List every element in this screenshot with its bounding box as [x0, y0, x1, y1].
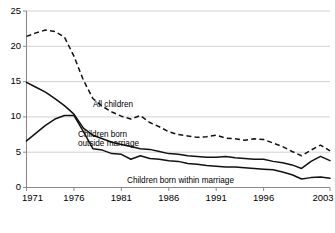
outside-marriage-label-line1: Children born: [78, 130, 128, 139]
x-tick-label-1971: 1971: [22, 192, 43, 203]
within-marriage-label: Children born within marriage: [127, 176, 234, 185]
chart-plot-area: All children Children born outside marri…: [0, 0, 335, 233]
all-children-label: All children: [93, 100, 133, 109]
y-tick-label-5: 5: [16, 146, 21, 157]
x-tick-label-1976: 1976: [63, 192, 84, 203]
x-tick-label-1986: 1986: [158, 192, 179, 203]
y-tick-label-20: 20: [10, 40, 21, 51]
y-tick-label-0: 0: [16, 181, 21, 192]
x-axis-tick-labels: 1971197619811986199119962003: [22, 192, 334, 203]
y-axis-tick-labels: 0510152025: [10, 5, 21, 193]
gridlines: [27, 11, 331, 152]
series-line-0: [27, 30, 331, 156]
series-line-1: [27, 82, 331, 168]
x-tick-label-1996: 1996: [253, 192, 274, 203]
data-series-layer: [27, 30, 331, 179]
line-chart: All children Children born outside marri…: [0, 0, 335, 233]
outside-marriage-label-line2: outside marriage: [78, 139, 139, 148]
x-tick-label-1991: 1991: [206, 192, 227, 203]
y-tick-label-25: 25: [10, 5, 21, 16]
y-tick-label-15: 15: [10, 75, 21, 86]
x-tick-label-1981: 1981: [111, 192, 132, 203]
y-tick-label-10: 10: [10, 110, 21, 121]
x-tick-label-2003: 2003: [312, 192, 333, 203]
